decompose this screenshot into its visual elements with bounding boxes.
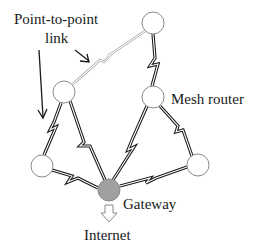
- link-gateway-bottomright: [120, 167, 187, 186]
- link-meshrouter-bottomright: [160, 106, 192, 156]
- label-point-to-point: Point-to-point: [14, 11, 99, 27]
- node-gateway: [98, 179, 120, 201]
- mesh-network-diagram: Point-to-point link Mesh router Gateway …: [0, 0, 261, 249]
- node-mesh-router: [142, 86, 164, 108]
- node-bottom-right: [187, 154, 209, 176]
- node-left-mid: [53, 81, 75, 103]
- arrow-long-icon: [38, 50, 47, 118]
- link-top-meshrouter: [150, 34, 158, 86]
- node-bottom-left: [31, 155, 53, 177]
- internet-arrow-icon: [101, 205, 117, 222]
- label-mesh-router: Mesh router: [171, 91, 244, 107]
- label-internet: Internet: [84, 227, 131, 243]
- arrow-short-icon: [75, 50, 89, 62]
- node-top: [142, 12, 164, 34]
- link-leftmid-gateway: [70, 101, 105, 180]
- link-meshrouter-gateway: [113, 106, 147, 180]
- links: [44, 31, 192, 188]
- label-gateway: Gateway: [123, 196, 177, 212]
- link-bottomleft-gateway: [52, 170, 98, 188]
- label-link: link: [45, 30, 69, 46]
